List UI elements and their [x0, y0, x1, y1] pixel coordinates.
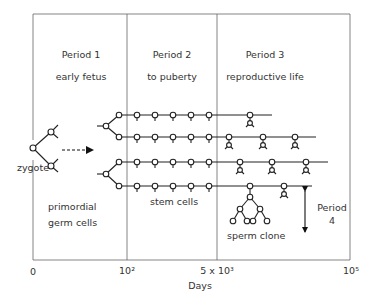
period-4-subtitle: 4 [329, 216, 335, 226]
lineage-lower [97, 162, 328, 186]
period-2-subtitle: to puberty [147, 72, 197, 82]
period-2-title: Period 2 [153, 50, 192, 60]
primordial-germ-cells-label-2: germ cells [48, 218, 97, 228]
axis-tick-0: 0 [30, 267, 36, 277]
zygote-label: zygote [17, 163, 49, 173]
stem-cells-label: stem cells [150, 197, 198, 207]
axis-tick-1e5: 10⁵ [343, 266, 359, 276]
period-4-title: Period [317, 203, 347, 213]
axis-tick-1e2: 10² [119, 266, 135, 276]
stem-cell-nodes [103, 112, 310, 198]
period-1-title: Period 1 [62, 50, 101, 60]
sperm-clones [230, 183, 270, 224]
lineage-upper [97, 115, 316, 137]
germ-cell-lineage-diagram [0, 0, 380, 296]
axis-tick-5e3: 5 x 10³ [200, 266, 234, 276]
period-1-subtitle: early fetus [56, 72, 107, 82]
period-3-subtitle: reproductive life [226, 72, 304, 82]
sperm-clone-label: sperm clone [227, 231, 285, 241]
zygote-node [30, 145, 36, 151]
primordial-germ-cells-label-1: primordial [48, 202, 97, 212]
period-3-title: Period 3 [246, 50, 285, 60]
axis-xlabel-days: Days [188, 281, 212, 291]
